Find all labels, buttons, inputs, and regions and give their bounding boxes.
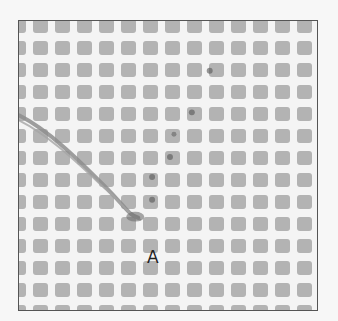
point-label-a: A [147, 249, 159, 266]
canvas-photo-frame: A [18, 20, 318, 311]
yarn-strand-icon [19, 21, 317, 310]
